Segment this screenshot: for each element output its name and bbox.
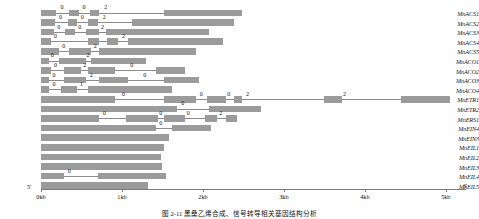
- gene-row: MnETR20: [0, 104, 479, 114]
- intron-phase-label: 2: [83, 62, 86, 68]
- intron-segment: [99, 13, 164, 14]
- exon-segment: [41, 10, 56, 17]
- intron-segment: [118, 41, 129, 42]
- gene-row: MnEIN3: [0, 133, 479, 143]
- intron-segment: [128, 80, 164, 81]
- exon-segment: [205, 115, 218, 122]
- intron-phase-label: 0: [59, 14, 62, 20]
- axis-line: [41, 189, 466, 190]
- exon-segment: [41, 86, 49, 93]
- exon-segment: [209, 106, 261, 113]
- gene-track: 01: [41, 85, 479, 95]
- intron-segment: [56, 13, 70, 14]
- exon-segment: [99, 77, 128, 84]
- exon-segment: [59, 58, 86, 65]
- intron-phase-label: 0: [103, 110, 106, 116]
- gene-row: MnACS1002: [0, 8, 479, 18]
- gene-row: MnEIN40: [0, 123, 479, 133]
- intron-phase-label: 0: [52, 72, 55, 78]
- gene-row: MnEIL1: [0, 142, 479, 152]
- axis-tick-label: 2kb: [198, 193, 207, 200]
- gene-row: MnACO2020: [0, 66, 479, 76]
- intron-segment: [185, 118, 204, 119]
- exon-segment: [68, 19, 78, 26]
- exon-segment: [41, 154, 161, 161]
- gene-track: 002: [41, 18, 479, 28]
- gene-track: 020: [41, 75, 479, 85]
- intron-phase-label: 0: [61, 4, 64, 10]
- intron-segment: [59, 51, 70, 52]
- intron-phase-label: 2: [246, 91, 249, 97]
- intron-segment: [99, 32, 105, 33]
- intron-phase-label: 0: [227, 91, 230, 97]
- intron-phase-label: 0: [62, 43, 65, 49]
- exon-segment: [41, 29, 54, 36]
- exon-segment: [207, 96, 226, 103]
- gene-track: 002: [41, 8, 479, 18]
- intron-phase-label: 0: [68, 168, 71, 174]
- intron-phase-label: 2: [101, 24, 104, 30]
- exon-segment: [88, 86, 172, 93]
- gene-row: MnEIL2: [0, 152, 479, 162]
- axis-tick: [284, 189, 285, 192]
- intron-phase-label: 0: [159, 120, 162, 126]
- exon-segment: [41, 182, 148, 189]
- intron-segment: [177, 109, 209, 110]
- exon-segment: [164, 10, 242, 17]
- gene-row: MnACS3002: [0, 27, 479, 37]
- axis-tick-label: 0kb: [36, 193, 45, 200]
- exon-segment: [164, 115, 185, 122]
- exon-segment: [41, 38, 51, 45]
- intron-phase-label: 0: [187, 110, 190, 116]
- intron-segment: [64, 176, 98, 177]
- gene-track: [41, 152, 479, 162]
- figure-caption: 图 2-11 黑桑乙烯合成、信号转导相关基因结构分析: [0, 209, 479, 218]
- intron-segment: [99, 41, 107, 42]
- intron-segment: [99, 118, 126, 119]
- axis-tick: [365, 189, 366, 192]
- axis-tick: [122, 189, 123, 192]
- exon-segment: [401, 96, 450, 103]
- intron-phase-label: 2: [104, 4, 107, 10]
- intron-segment: [156, 128, 172, 129]
- exon-segment: [90, 10, 100, 17]
- intron-segment: [77, 89, 88, 90]
- exon-segment: [41, 125, 156, 132]
- gene-row: MnERS10002: [0, 114, 479, 124]
- intron-phase-label: 0: [82, 4, 85, 10]
- gene-track: 0: [41, 104, 479, 114]
- gene-row: MnACO401: [0, 85, 479, 95]
- axis-tick-label: 4kb: [360, 193, 369, 200]
- gene-row: MnEIL3: [0, 162, 479, 172]
- exon-segment: [88, 19, 98, 26]
- gene-track: 0002: [41, 114, 479, 124]
- intron-phase-label: 2: [219, 110, 222, 116]
- intron-phase-label: 0: [81, 14, 84, 20]
- exon-segment: [234, 96, 242, 103]
- intron-phase-label: 0: [200, 91, 203, 97]
- gene-row: MnACO3020: [0, 75, 479, 85]
- intron-phase-label: 2: [103, 14, 106, 20]
- intron-phase-label: 2: [343, 91, 346, 97]
- exon-segment: [41, 67, 51, 74]
- exon-segment: [99, 48, 196, 55]
- intron-phase-label: 0: [159, 110, 162, 116]
- intron-phase-label: 2: [122, 33, 125, 39]
- exon-segment: [107, 38, 118, 45]
- exon-segment: [41, 106, 177, 113]
- intron-phase-label: 0: [54, 62, 57, 68]
- exon-segment: [128, 38, 223, 45]
- exon-segment: [41, 144, 164, 151]
- intron-phase-label: 0: [122, 91, 125, 97]
- five-prime-label: 5': [27, 183, 31, 190]
- exon-segment: [64, 67, 82, 74]
- intron-segment: [226, 99, 234, 100]
- intron-phase-label: 0: [57, 24, 60, 30]
- axis-tick-label: 1kb: [117, 193, 126, 200]
- intron-phase-label: 0: [52, 81, 55, 87]
- intron-phase-label: 0: [130, 62, 133, 68]
- exon-segment: [61, 86, 77, 93]
- intron-segment: [81, 70, 87, 71]
- intron-segment: [115, 99, 164, 100]
- axis-tick: [203, 189, 204, 192]
